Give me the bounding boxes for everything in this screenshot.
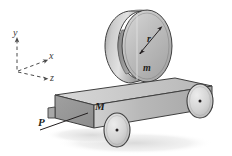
figure-root: y x z bbox=[0, 0, 232, 156]
coordinate-axes: y x z bbox=[12, 27, 54, 83]
y-axis-label: y bbox=[12, 27, 18, 38]
hoop-mass-label: m bbox=[143, 62, 151, 73]
rear-wheel bbox=[187, 84, 213, 118]
x-axis-label: x bbox=[48, 50, 54, 61]
z-axis-line bbox=[18, 72, 45, 78]
front-wheel-hub-dot bbox=[116, 129, 119, 132]
front-wheel bbox=[104, 113, 130, 147]
force-p-label: P bbox=[38, 116, 45, 128]
hoop-body: r m bbox=[105, 10, 172, 83]
hoop-center-dot bbox=[140, 52, 142, 54]
rear-wheel-hub-dot bbox=[199, 100, 202, 103]
radius-label: r bbox=[147, 33, 151, 44]
cart-with-hoop-figure: y x z bbox=[0, 0, 232, 156]
z-axis-arrowhead bbox=[43, 77, 48, 81]
cart-mass-label: M bbox=[94, 100, 106, 112]
z-axis-label: z bbox=[49, 72, 54, 83]
x-axis-line bbox=[18, 61, 45, 71]
cart-left-nub bbox=[48, 107, 55, 118]
